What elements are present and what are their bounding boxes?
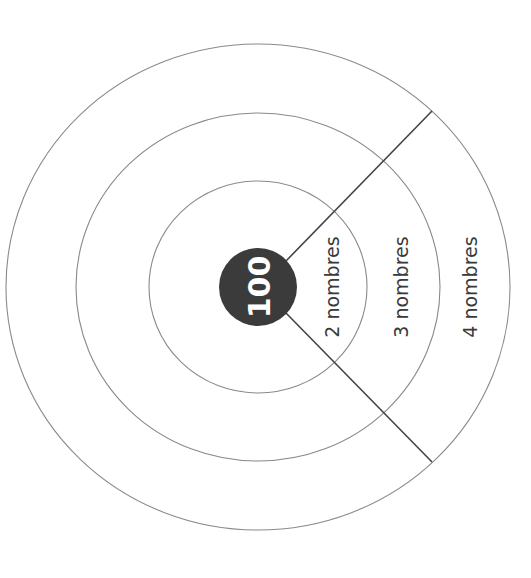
center-badge-label: 100 xyxy=(242,256,277,319)
ring-label-4: 4 nombres xyxy=(459,236,481,337)
target-diagram: 100 2 nombres 3 nombres 4 nombres xyxy=(0,0,531,578)
ring-label-2: 2 nombres xyxy=(321,236,343,337)
ring-label-3: 3 nombres xyxy=(390,236,412,337)
